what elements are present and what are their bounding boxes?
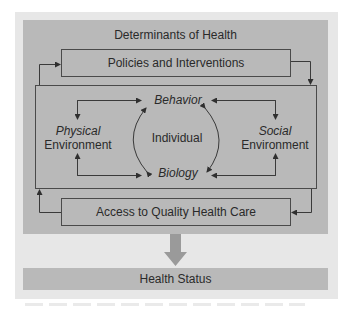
physical-to-biology-arrow bbox=[78, 160, 142, 176]
health-status-box: Health Status bbox=[23, 268, 328, 290]
behavior-to-physical-arrow bbox=[78, 101, 91, 120]
right-top-connector bbox=[291, 62, 311, 85]
connector-arrows bbox=[0, 0, 346, 311]
behavior-to-social-arrow bbox=[262, 101, 276, 120]
health-status-label: Health Status bbox=[139, 272, 211, 286]
physical-to-behavior-arrow bbox=[78, 101, 142, 120]
outcome-arrow bbox=[164, 234, 187, 266]
social-to-biology-arrow bbox=[212, 160, 276, 176]
social-to-behavior-arrow bbox=[212, 101, 276, 111]
biology-to-physical-arrow bbox=[78, 154, 91, 176]
cropped-caption bbox=[25, 303, 305, 306]
right-cycle-arc bbox=[205, 108, 219, 172]
biology-to-social-arrow bbox=[262, 154, 276, 176]
left-cycle-arc bbox=[133, 108, 147, 172]
left-bottom-connector bbox=[40, 190, 62, 213]
left-top-connector bbox=[40, 65, 61, 86]
right-bottom-connector bbox=[292, 189, 312, 213]
